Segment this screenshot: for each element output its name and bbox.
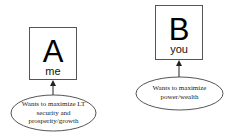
node-letter-b: B (156, 14, 202, 45)
node-box-a: A me (29, 27, 77, 80)
goal-text-b: Wants to maximize power/wealth (142, 84, 217, 101)
node-box-b: B you (155, 5, 203, 60)
goal-a-line-1: Wants to maximize LT (16, 100, 91, 109)
goal-b-line-2: power/wealth (142, 93, 217, 102)
goal-b-line-1: Wants to maximize (142, 84, 217, 93)
node-label-b: you (156, 43, 202, 55)
goal-a-line-2: security and (16, 109, 91, 118)
goal-a-line-3: prosperity/growth (16, 117, 91, 126)
node-letter-a: A (30, 36, 76, 67)
node-label-a: me (30, 65, 76, 77)
diagram-canvas: A me B you Wants to maximize LT security… (0, 0, 233, 135)
goal-text-a: Wants to maximize LT security and prospe… (16, 100, 91, 126)
